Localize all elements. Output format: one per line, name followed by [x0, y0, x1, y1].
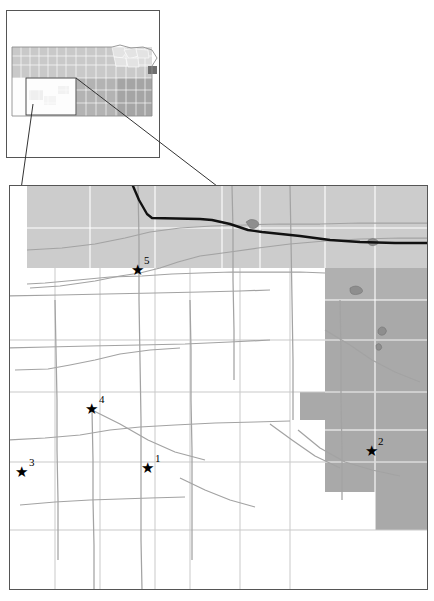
site-marker-star-3[interactable]: ★ [15, 465, 28, 480]
site-marker-label-2: 2 [378, 436, 384, 447]
inset-patch-b [44, 96, 56, 105]
east-region-white-notch2 [300, 420, 325, 462]
inset-block-right [118, 78, 152, 116]
band-west-stair [10, 186, 27, 268]
site-marker-label-5: 5 [144, 255, 150, 266]
east-region-upper-lobe [325, 268, 427, 300]
site-marker-star-4[interactable]: ★ [85, 402, 98, 417]
inset-highlight-county [148, 66, 157, 74]
inset-patch-a [29, 90, 43, 100]
north-light-gray-band [27, 186, 427, 268]
main-map-group [10, 186, 428, 590]
site-marker-label-1: 1 [155, 453, 161, 464]
map-figure: ★ 1 ★ 2 ★ 3 ★ 4 ★ 5 [0, 0, 434, 601]
east-region-white-notch [300, 340, 325, 392]
site-marker-label-3: 3 [29, 457, 35, 468]
site-marker-star-5[interactable]: ★ [131, 263, 144, 278]
site-marker-star-2[interactable]: ★ [365, 444, 378, 459]
map-graphics [0, 0, 434, 601]
inset-map-group [7, 11, 160, 158]
site-marker-star-1[interactable]: ★ [141, 461, 154, 476]
site-marker-label-4: 4 [99, 394, 105, 405]
